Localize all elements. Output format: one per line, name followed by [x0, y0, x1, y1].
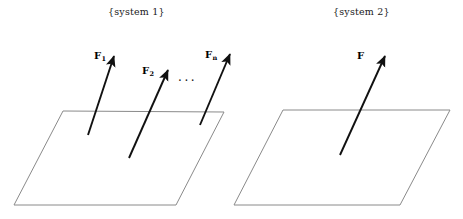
- ellipsis-dots: ...: [178, 70, 197, 84]
- plane-system-2: [234, 110, 450, 205]
- force-arrow-f2: [129, 70, 168, 158]
- force-label-f-symbol: F: [357, 50, 364, 61]
- force-arrow-f: [340, 56, 385, 155]
- caption-system-1: {system 1}: [108, 6, 165, 17]
- force-label-f1-subscript: 1: [101, 55, 106, 63]
- force-label-f2: F2: [142, 66, 154, 76]
- force-label-f2-subscript: 2: [149, 70, 154, 78]
- force-label-fn-subscript: n: [212, 54, 217, 62]
- force-label-fn: Fn: [205, 50, 217, 60]
- force-label-f1: F1: [94, 51, 106, 61]
- force-arrow-f1: [88, 56, 114, 135]
- force-arrow-fn: [200, 54, 230, 125]
- force-systems-figure: {system 1} {system 2} F1 F2 ... Fn F: [0, 0, 463, 219]
- force-label-f: F: [357, 51, 364, 61]
- diagram-canvas: [0, 0, 463, 219]
- plane-system-1: [14, 111, 224, 205]
- caption-system-2: {system 2}: [333, 6, 390, 17]
